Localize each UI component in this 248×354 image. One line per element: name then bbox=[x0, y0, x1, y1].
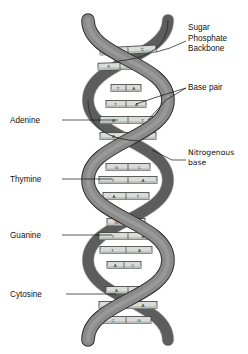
base-letter-left: T bbox=[117, 86, 120, 91]
base-pair-rung: TA bbox=[100, 247, 152, 254]
base-letter-left: G bbox=[115, 165, 119, 170]
label-adenine: Adenine bbox=[10, 116, 40, 125]
base-pair-rung: TA bbox=[106, 101, 146, 108]
label-sugar-phosphate-backbone-line-0: Sugar bbox=[188, 23, 210, 32]
label-base-pair-line-0: Base pair bbox=[188, 83, 223, 92]
label-sugar-phosphate-backbone-line-1: Phosphate bbox=[188, 34, 228, 43]
dna-double-helix-diagram: GCATTATAATATGCTAATGCTATAACATTACG Adenine… bbox=[0, 0, 248, 354]
base-pair-rung: AT bbox=[103, 193, 149, 200]
base-letter-right: A bbox=[142, 178, 145, 183]
base-letter-right: C bbox=[141, 47, 144, 52]
base-letter-right: T bbox=[141, 118, 144, 123]
label-cytosine: Cytosine bbox=[10, 290, 42, 299]
base-letter-right: A bbox=[132, 86, 135, 91]
base-letter-right: A bbox=[142, 303, 145, 308]
base-letter-left: A bbox=[115, 288, 118, 293]
base-letter-left: T bbox=[112, 234, 115, 239]
base-letter-left: A bbox=[113, 194, 116, 199]
base-letter-left: T bbox=[114, 102, 117, 107]
label-nitrogenous-base-line-0: Nitrogenous bbox=[188, 148, 234, 157]
base-letter-left: T bbox=[112, 178, 115, 183]
base-letter-left: A bbox=[107, 64, 110, 69]
base-pair-rung: TA bbox=[99, 177, 157, 184]
label-sugar-phosphate-backbone-line-2: Backbone bbox=[188, 44, 225, 53]
base-letter-right: A bbox=[138, 248, 141, 253]
base-letter-right: C bbox=[131, 263, 134, 268]
base-pair-rung: TA bbox=[111, 85, 141, 92]
base-letter-right: T bbox=[137, 194, 140, 199]
base-letter-right: G bbox=[137, 318, 141, 323]
base-letter-left: T bbox=[111, 248, 114, 253]
label-nitrogenous-base-line-1: base bbox=[188, 158, 206, 167]
base-pair-rung: AC bbox=[107, 262, 141, 269]
base-letter-left: A bbox=[114, 263, 117, 268]
base-pair-rung: GC bbox=[106, 164, 150, 171]
base-letter-left: C bbox=[111, 318, 114, 323]
label-thymine: Thymine bbox=[10, 175, 42, 184]
base-letter-right: C bbox=[138, 165, 141, 170]
label-guanine: Guanine bbox=[10, 231, 41, 240]
